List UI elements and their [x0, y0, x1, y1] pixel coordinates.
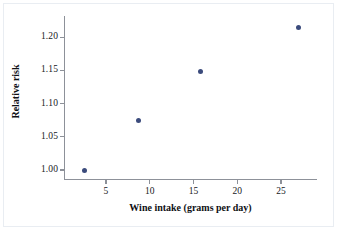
y-axis-tick-label: 1.20 [24, 31, 58, 41]
y-axis-tick [60, 70, 64, 71]
x-axis-tick [280, 180, 281, 184]
data-point [296, 25, 301, 30]
y-axis-tick-label: 1.05 [24, 131, 58, 141]
x-axis-tick-label: 5 [91, 186, 121, 196]
y-axis-tick-label-wrap: 1.05 [20, 131, 58, 143]
y-axis-tick-label-wrap: 1.15 [20, 64, 58, 76]
y-axis-tick-label: 1.15 [24, 64, 58, 74]
y-axis-tick-label-wrap: 1.10 [20, 98, 58, 110]
y-axis-tick [60, 136, 64, 137]
x-axis-tick [149, 180, 150, 184]
y-axis-tick [60, 169, 64, 170]
data-point [136, 118, 141, 123]
data-point [82, 168, 87, 173]
x-axis-tick-label: 15 [179, 186, 209, 196]
x-axis-tick [193, 180, 194, 184]
plot-area [64, 16, 316, 180]
y-axis-spine [64, 16, 65, 180]
y-axis-tick-label-wrap: 1.00 [20, 164, 58, 176]
y-axis-tick [60, 37, 64, 38]
x-axis-title: Wine intake (grams per day) [64, 202, 317, 213]
y-axis-tick [60, 103, 64, 104]
x-axis-tick [105, 180, 106, 184]
y-axis-tick-label-wrap: 1.20 [20, 31, 58, 43]
scatter-chart-figure: 1.001.051.101.151.20 510152025 Wine inta… [0, 0, 337, 230]
x-axis-spine [64, 179, 317, 180]
y-axis-tick-label: 1.10 [24, 98, 58, 108]
y-axis-tick-label: 1.00 [24, 164, 58, 174]
x-axis-tick-label: 10 [135, 186, 165, 196]
x-axis-tick [237, 180, 238, 184]
x-axis-tick-label: 20 [222, 186, 252, 196]
y-axis-title: Relative risk [10, 32, 21, 152]
x-axis-tick-label: 25 [266, 186, 296, 196]
